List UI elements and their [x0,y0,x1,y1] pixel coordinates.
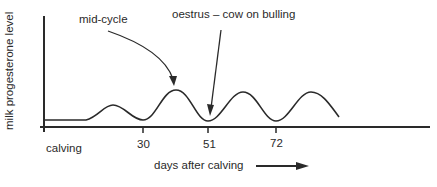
tick-label-30: 30 [137,138,150,150]
x-axis-label: days after calving [154,159,244,171]
mid-cycle-arrow-line [108,31,173,79]
oestrus-arrow-line [211,30,221,108]
oestrus-arrowhead-icon [207,104,214,116]
calving-label: calving [46,142,82,154]
mid-cycle-label: mid-cycle [79,13,128,25]
progesterone-curve [44,90,339,121]
oestrus-label: oestrus – cow on bulling [172,8,295,20]
tick-label-51: 51 [203,138,216,150]
x-direction-arrowhead-icon [296,162,309,170]
mid-cycle-arrowhead-icon [169,76,177,86]
y-axis-label: milk progesterone level [3,12,15,130]
tick-label-72: 72 [270,137,283,149]
